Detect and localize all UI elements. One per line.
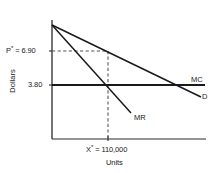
y-axis-title: Dollars [4, 62, 20, 100]
curve-label-mc: MC [191, 75, 202, 84]
curve-demand [52, 25, 201, 97]
y-tick-label-price: P* = 6.90 [6, 46, 36, 55]
curve-label-d: D [202, 92, 207, 101]
quantity-tick-suffix: = 110,000 [93, 145, 127, 154]
x-axis-title: Units [106, 158, 123, 167]
curve-label-mr: MR [134, 113, 145, 122]
price-tick-suffix: = 6.90 [13, 46, 35, 55]
x-tick-label-quantity: X* = 110,000 [86, 145, 127, 154]
curve-mr [52, 25, 131, 113]
y-axis-title-text: Dollars [8, 69, 17, 92]
economics-monopoly-chart: Dollars P* = 6.90 3.80 MC D MR X* = 110,… [0, 0, 218, 173]
y-tick-label-cost: 3.80 [28, 80, 42, 89]
